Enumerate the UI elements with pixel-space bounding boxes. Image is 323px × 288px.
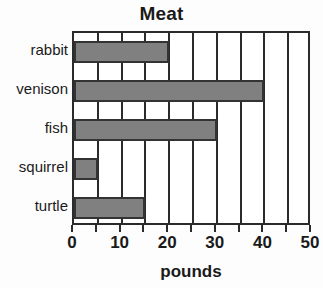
bar-chart: Meat rabbitvenisonfishsquirrelturtle 010… — [0, 0, 323, 288]
x-tick-label-10: 10 — [110, 233, 129, 253]
x-axis-ticks: 01020304050 — [72, 225, 310, 255]
y-tick-label-rabbit: rabbit — [2, 41, 68, 58]
x-tick-label-50: 50 — [301, 233, 320, 253]
bar-row — [74, 158, 312, 180]
bar-fish — [74, 119, 217, 141]
bar-row — [74, 41, 312, 63]
plot-area — [72, 31, 310, 225]
x-tick-mark — [95, 225, 97, 232]
x-tick-label-30: 30 — [205, 233, 224, 253]
x-tick-mark — [71, 225, 73, 232]
x-tick-label-20: 20 — [158, 233, 177, 253]
x-tick-label-40: 40 — [253, 233, 272, 253]
x-axis-title: pounds — [72, 262, 310, 282]
bar-rabbit — [74, 41, 169, 63]
x-tick-mark — [238, 225, 240, 232]
y-tick-label-squirrel: squirrel — [2, 158, 68, 175]
bar-row — [74, 197, 312, 219]
y-tick-label-venison: venison — [2, 80, 68, 97]
x-tick-mark — [142, 225, 144, 232]
x-tick-mark — [214, 225, 216, 232]
bar-venison — [74, 80, 264, 102]
y-axis-labels: rabbitvenisonfishsquirrelturtle — [0, 31, 68, 225]
x-tick-mark — [166, 225, 168, 232]
y-tick-label-turtle: turtle — [2, 197, 68, 214]
x-tick-label-0: 0 — [67, 233, 76, 253]
y-tick-label-fish: fish — [2, 119, 68, 136]
x-tick-mark — [190, 225, 192, 232]
x-tick-mark — [119, 225, 121, 232]
bar-row — [74, 119, 312, 141]
x-tick-mark — [285, 225, 287, 232]
x-tick-mark — [261, 225, 263, 232]
bar-row — [74, 80, 312, 102]
bar-squirrel — [74, 158, 98, 180]
chart-title: Meat — [0, 3, 323, 25]
bar-turtle — [74, 197, 145, 219]
x-tick-mark — [309, 225, 311, 232]
